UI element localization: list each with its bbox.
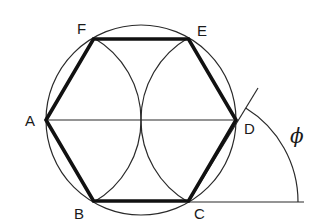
label-c: C: [194, 205, 205, 222]
label-phi: ϕ: [290, 124, 304, 148]
label-d: D: [244, 120, 255, 137]
label-a: A: [25, 112, 35, 129]
label-f: F: [77, 20, 86, 37]
label-e: E: [197, 22, 207, 39]
hexagon-construction-diagram: F E A D B C ϕ: [0, 0, 334, 223]
label-b: B: [74, 205, 84, 222]
